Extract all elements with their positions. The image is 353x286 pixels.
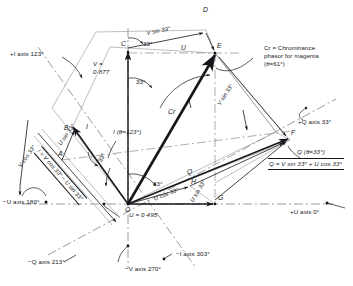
point-label-f: F bbox=[291, 129, 295, 137]
point-label-a: A bbox=[58, 150, 63, 158]
axis-label-minus-v: −V axis 270° bbox=[125, 265, 161, 273]
point-label-c: C bbox=[121, 40, 126, 48]
axis-label-minus-q: −Q axis 213° bbox=[28, 258, 65, 266]
axis-label-plus-i: +I axis 123° bbox=[10, 50, 44, 58]
axis-label-plus-q: +Q axis 33° bbox=[298, 118, 331, 126]
symbol-label-q-vec: Q bbox=[187, 168, 192, 176]
axis-label-plus-u: +U axis 0° bbox=[290, 208, 319, 216]
symbol-label-cr: Cr bbox=[168, 108, 175, 116]
angle-label-below-c: 33° bbox=[136, 78, 146, 86]
point-label-g: G bbox=[218, 194, 223, 202]
point-label-d: D bbox=[203, 6, 208, 14]
formula-q-boxed: Q = V sin 33° + U cos 33° bbox=[268, 158, 344, 170]
annotation-q-theta: Q (θ=33°) bbox=[297, 148, 325, 156]
phasor-diagram-graphics bbox=[0, 0, 353, 286]
value-label-v: V = 0·877 bbox=[93, 60, 109, 76]
symbol-label-u-top: U bbox=[181, 44, 186, 52]
point-label-e: E bbox=[217, 42, 222, 50]
point-label-h: H bbox=[191, 178, 196, 186]
symbol-label-i-vec: I bbox=[86, 123, 88, 131]
annotation-cr-callout: Cr = Chrominance phasor for magenta (θ=6… bbox=[264, 44, 319, 68]
annotation-i-theta: I (θ=123°) bbox=[113, 128, 141, 136]
axis-label-minus-u: −U axis 180° bbox=[3, 198, 40, 206]
angle-label-origin-q: 33° bbox=[153, 180, 163, 188]
diagram-canvas: D C E B A F G H O +I axis 123° +Q axis 3… bbox=[0, 0, 353, 286]
axis-label-minus-i: −I axis 303° bbox=[176, 250, 210, 258]
angle-label-at-c: 33° bbox=[143, 40, 153, 48]
value-label-u: U = 0·495 bbox=[129, 211, 157, 219]
